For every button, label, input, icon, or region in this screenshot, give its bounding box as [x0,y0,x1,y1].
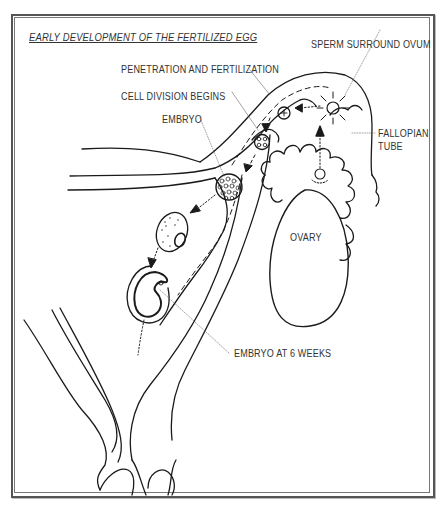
label-ovary: OVARY [290,231,322,243]
label-cell-division: CELL DIVISION BEGINS [121,90,225,102]
ovulating-follicle-icon [312,126,328,183]
broad-ligament-lines [68,148,215,190]
label-sperm-surround-ovum: SPERM SURROUND OVUM [311,38,431,50]
ovum-with-sperm-icon [317,92,349,124]
uterus [24,135,270,495]
label-penetration-fertilization: PENETRATION AND FERTILIZATION [121,63,279,75]
diagram-title: EARLY DEVELOPMENT OF THE FERTILIZED EGG [29,31,257,43]
cell-division-icon [255,135,270,150]
reproductive-anatomy-illustration [0,0,445,512]
label-tube: TUBE [378,140,403,152]
label-leader-lines [160,30,380,354]
label-fallopian: FALLOPIAN [378,127,429,139]
embryo-6-weeks-icon [127,266,169,355]
label-embryo-6-weeks: EMBRYO AT 6 WEEKS [234,347,331,359]
label-embryo: EMBRYO [162,113,202,125]
